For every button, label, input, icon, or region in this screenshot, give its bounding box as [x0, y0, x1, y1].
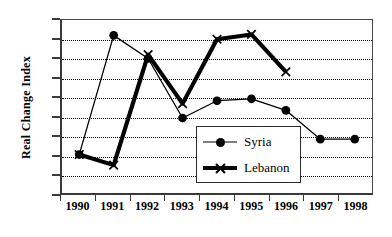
y-axis-tick-mark [52, 116, 60, 118]
data-point-marker [109, 31, 118, 40]
y-axis-tick-mark [52, 57, 60, 59]
y-axis-tick-mark [52, 155, 60, 157]
x-axis-tick-mark [234, 195, 235, 201]
x-axis-tick-mark [199, 195, 200, 201]
x-axis-tick-mark [269, 195, 270, 201]
y-axis-tick-mark [52, 135, 60, 137]
circle-marker-icon [203, 135, 237, 149]
legend-label-syria: Syria [244, 134, 271, 150]
y-axis-tick-mark [52, 18, 60, 20]
legend-item-lebanon: Lebanon [203, 158, 289, 178]
x-axis-tick-mark [164, 195, 165, 201]
y-axis-tick-mark [52, 194, 60, 196]
data-point-marker [350, 135, 359, 144]
y-axis-tick-mark [52, 96, 60, 98]
x-axis-tick-mark [95, 195, 96, 201]
y-axis-tick-mark [52, 38, 60, 40]
data-point-marker [247, 94, 256, 103]
x-axis-tick-mark [130, 195, 131, 201]
x-axis-tick-mark [303, 195, 304, 201]
x-axis-tick-label: 1998 [333, 199, 379, 214]
x-axis-tick-mark [338, 195, 339, 201]
x-marker-icon [203, 161, 237, 175]
chart-legend: Syria Lebanon [196, 126, 301, 183]
legend-item-syria: Syria [203, 132, 271, 152]
data-point-marker [178, 114, 187, 123]
chart-figure: Real Change Index 1701601501401301201101… [0, 0, 392, 237]
data-point-marker [213, 96, 222, 105]
data-point-marker [282, 106, 291, 115]
legend-label-lebanon: Lebanon [244, 160, 289, 176]
y-axis-tick-mark [52, 174, 60, 176]
data-point-marker [316, 135, 325, 144]
y-axis-title: Real Change Index [19, 28, 34, 188]
y-axis-tick-mark [52, 77, 60, 79]
x-axis-tick-mark [60, 195, 61, 201]
